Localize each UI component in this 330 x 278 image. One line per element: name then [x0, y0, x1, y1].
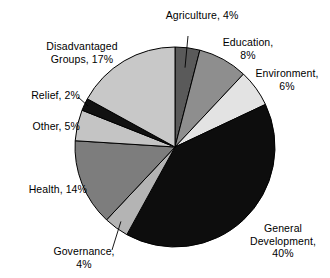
pie-slice-group — [75, 47, 275, 247]
slice-label-education: Education, 8% — [212, 36, 284, 61]
slice-label-governance: Governance, 4% — [43, 245, 125, 270]
slice-label-environment: Environment, 6% — [246, 67, 328, 92]
slice-label-other: Other, 5% — [8, 120, 80, 133]
pie-chart-figure: Agriculture, 4% Education, 8% Environmen… — [0, 0, 330, 278]
slice-label-agriculture: Agriculture, 4% — [147, 9, 257, 22]
slice-label-health: Health, 14% — [5, 183, 87, 196]
slice-label-disadvantaged-groups: Disadvantaged Groups, 17% — [27, 40, 137, 65]
slice-label-relief: Relief, 2% — [12, 89, 80, 102]
slice-label-general-development: General Development, 40% — [238, 222, 328, 260]
